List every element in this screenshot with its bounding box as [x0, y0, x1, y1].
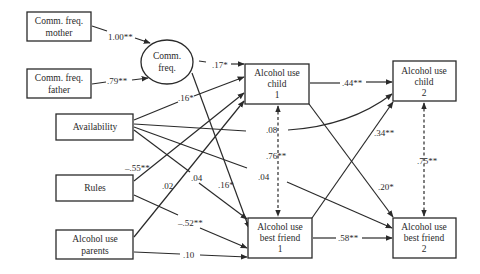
svg-text:Comm.: Comm. [153, 51, 181, 61]
edge-label: .04 [258, 172, 270, 182]
node-alcohol-use-child-1: Alcohol use child 1 [245, 64, 309, 104]
edge-availability-to-friend1: .04 [134, 130, 247, 219]
edge-child1-friend1-covariance: .76** [266, 106, 287, 216]
node-comm-freq-latent: Comm. freq. [141, 40, 193, 84]
edge-rules-to-friend1: –.52** [134, 195, 247, 248]
edge-label: .79** [107, 76, 128, 86]
edge-label: .08 [266, 125, 278, 135]
path-model-diagram: 1.00** .79** .17* .16* .16* .08 [0, 0, 480, 274]
svg-text:Alcohol use: Alcohol use [401, 222, 447, 232]
edge-label: .16* [218, 180, 234, 190]
edge-label: .44** [342, 78, 363, 88]
svg-text:Alcohol use: Alcohol use [257, 222, 303, 232]
edge-label: –.55** [124, 163, 150, 173]
node-alcohol-use-parents: Alcohol use parents [56, 230, 133, 259]
edge-label: .17* [212, 60, 228, 70]
edge-label: .04 [191, 173, 203, 183]
edge-child2-friend2-covariance: .75** [417, 103, 438, 216]
svg-text:father: father [48, 85, 71, 95]
svg-text:Alcohol use: Alcohol use [72, 234, 118, 244]
svg-text:freq.: freq. [158, 63, 176, 73]
node-rules: Rules [56, 175, 133, 201]
edge-label: .34** [374, 128, 395, 138]
edge-label: .20* [378, 182, 394, 192]
svg-text:Alcohol use: Alcohol use [401, 66, 447, 76]
svg-text:best friend: best friend [404, 233, 445, 243]
edge-label: .75** [417, 156, 438, 166]
svg-text:Rules: Rules [84, 183, 106, 193]
node-comm-freq-mother: Comm. freq. mother [27, 12, 91, 41]
edge-label: .76** [266, 151, 287, 161]
node-alcohol-use-child-2: Alcohol use child 2 [393, 61, 456, 101]
svg-text:Alcohol use: Alcohol use [254, 68, 300, 78]
svg-text:1: 1 [275, 90, 280, 100]
svg-text:Availability: Availability [73, 122, 118, 132]
svg-text:Comm. freq.: Comm. freq. [35, 73, 83, 83]
node-alcohol-use-best-friend-1: Alcohol use best friend 1 [248, 218, 312, 258]
edge-friend1-to-child2: .34** [312, 102, 395, 218]
edge-availability-to-child1: .16* [134, 77, 244, 120]
edge-label: .10 [183, 250, 195, 260]
node-comm-freq-father: Comm. freq. father [27, 69, 91, 98]
edge-label: .16* [178, 93, 194, 103]
edge-parents-to-friend1: .10 [134, 250, 247, 260]
node-availability: Availability [56, 114, 133, 140]
edge-comm-mother-to-comm-freq: 1.00** [92, 26, 150, 43]
edge-label: .58** [338, 233, 359, 243]
svg-text:child: child [268, 79, 287, 89]
edge-comm-father-to-comm-freq: .79** [92, 76, 148, 86]
edge-comm-freq-to-child1: .17* [199, 60, 244, 70]
svg-text:mother: mother [46, 28, 74, 38]
svg-text:Comm. freq.: Comm. freq. [35, 16, 83, 26]
edge-child1-to-child2: .44** [310, 78, 392, 88]
svg-text:2: 2 [422, 88, 427, 98]
svg-text:1: 1 [278, 244, 283, 254]
svg-text:parents: parents [81, 246, 109, 256]
edge-label: 1.00** [108, 32, 133, 42]
edge-label: –.52** [177, 218, 203, 228]
edge-label: .02 [162, 181, 173, 191]
svg-text:child: child [415, 77, 434, 87]
node-alcohol-use-best-friend-2: Alcohol use best friend 2 [393, 218, 456, 258]
edge-friend1-to-friend2: .58** [313, 233, 392, 243]
svg-text:2: 2 [422, 244, 427, 254]
svg-text:best friend: best friend [260, 233, 301, 243]
